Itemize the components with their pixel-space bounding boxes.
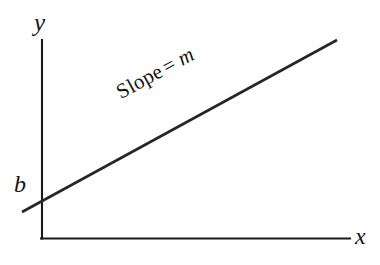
graph-canvas [0,0,380,265]
x-axis-label: x [355,224,366,248]
graph-figure: y b x Slope=m [0,0,380,265]
y-axis-label: y [34,10,45,35]
y-intercept-label: b [14,172,26,196]
